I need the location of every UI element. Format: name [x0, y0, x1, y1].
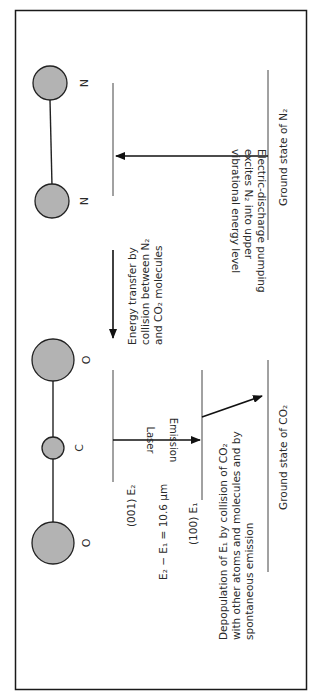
transfer-line-3: and CO₂ molecules [152, 245, 164, 345]
n-atom-bottom [35, 184, 69, 218]
n-atom-top [33, 66, 67, 100]
depopulation-line-1: Depopulation of E₁ by collision of CO₂ [217, 443, 229, 640]
n2-ground-label: Ground state of N₂ [277, 109, 289, 206]
n-label-top: N [77, 79, 90, 87]
co2-laser-diagram: N N Electric-discharge pumping excites N… [0, 0, 310, 700]
o-label-bottom: O [80, 538, 93, 547]
n-label-bottom: N [77, 197, 90, 205]
o-atom-top [32, 339, 74, 381]
c-atom [42, 437, 64, 459]
depopulation-line-2: with other atoms and molecules and by [230, 431, 242, 640]
depopulation-line-3: spontaneous emission [243, 523, 255, 640]
pump-line-1: Electric-discharge pumping [256, 149, 268, 293]
emission-label: Emission [168, 418, 179, 463]
laser-label: Laser [145, 426, 156, 454]
transfer-line-2: collision between N₂ [139, 238, 151, 345]
o-label-top: O [80, 355, 93, 364]
o-atom-bottom [32, 522, 74, 564]
n2-bond [50, 100, 52, 186]
n2-molecule: N N [33, 66, 90, 218]
pump-line-2: excites N₂ into upper [243, 149, 255, 260]
c-label: C [73, 444, 86, 452]
pump-line-3: vibrational energy level [230, 149, 242, 273]
wavelength-equation: E₂ − E₁ = 10.6 μm [157, 484, 169, 580]
depopulation-arrow [202, 396, 262, 417]
e2-label: (001) E₂ [125, 485, 137, 527]
co2-ground-label: Ground state of CO₂ [277, 405, 289, 510]
co2-molecule: O C O [32, 339, 93, 564]
transfer-line-1: Energy transfer by [126, 247, 138, 345]
e1-label: (100) E₁ [187, 503, 199, 545]
